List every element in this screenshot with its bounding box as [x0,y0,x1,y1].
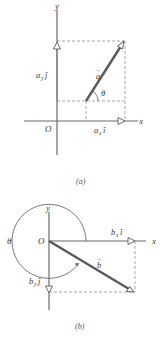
svg-text:y: y [40,75,44,81]
panel-a-x-component-arrowhead-icon [118,118,125,125]
panel-b-origin-label: O [38,236,45,246]
panel-a-angle-arc [93,91,99,101]
vector-b-label: b [97,260,101,270]
svg-text:ĵ: ĵ [44,70,48,80]
svg-text:b: b [29,276,33,286]
svg-text:y: y [33,281,37,287]
panel-a-y-component-arrowhead-icon [54,42,61,49]
panel-a-dashed-guides [57,41,125,121]
panel-a-origin-label: O [45,124,52,134]
svg-text:î: î [103,125,106,135]
panel-a-x-component-label: a x î [94,125,106,136]
panel-a-caption: (a) [76,177,86,186]
vector-a-label: a [96,71,100,81]
panel-b-y-component-label: b y ĵ [29,276,41,287]
svg-text:x: x [98,130,102,136]
panel-a-y-axis-label: y [54,1,59,11]
vector-b [49,241,129,289]
panel-a-y-component-label: a y ĵ [36,70,48,81]
vector-components-diagram: y x O → a θ a y ĵ a x î (a) [0,0,164,337]
panel-a-vector-label: → a [95,67,101,81]
panel-a-x-axis-label: x [138,116,143,126]
svg-text:a: a [36,70,40,80]
panel-b-caption: (b) [75,322,85,331]
panel-a-angle-label: θ [101,88,105,98]
panel-b-x-axis-label: x [151,236,156,246]
svg-text:î: î [120,227,123,237]
panel-b-angle-label: θ [7,236,12,246]
svg-text:a: a [94,125,98,135]
panel-b: y x O θ → b b x î b y ĵ (b) [7,203,156,331]
panel-b-vector-label: → b [96,256,102,270]
panel-a: y x O → a θ a y ĵ a x î (a) [24,1,143,186]
svg-text:b: b [111,227,115,237]
panel-b-x-component-label: b x î [111,227,123,238]
svg-text:x: x [115,232,119,238]
panel-b-y-axis-label: y [45,203,50,213]
panel-b-x-component-arrowhead-icon [128,238,135,245]
